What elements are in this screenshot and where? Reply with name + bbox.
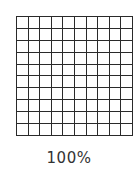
grid-cell bbox=[63, 100, 75, 112]
grid-cell bbox=[40, 76, 52, 88]
grid-cell bbox=[63, 88, 75, 100]
grid-cell bbox=[40, 41, 52, 53]
grid-cell bbox=[29, 17, 41, 29]
grid-cell bbox=[63, 29, 75, 41]
grid-cell bbox=[121, 17, 133, 29]
grid-cell bbox=[110, 53, 122, 65]
grid-cell bbox=[98, 88, 110, 100]
grid-cell bbox=[29, 76, 41, 88]
grid-cell bbox=[17, 65, 29, 77]
grid-cell bbox=[121, 100, 133, 112]
grid-cell bbox=[75, 88, 87, 100]
grid-cell bbox=[121, 76, 133, 88]
grid-cell bbox=[40, 100, 52, 112]
grid-cell bbox=[29, 100, 41, 112]
grid-cell bbox=[98, 100, 110, 112]
grid-cell bbox=[40, 17, 52, 29]
grid-cell bbox=[40, 53, 52, 65]
grid-cell bbox=[17, 29, 29, 41]
grid-cell bbox=[17, 76, 29, 88]
grid-cell bbox=[63, 41, 75, 53]
grid-cell bbox=[40, 112, 52, 124]
grid-cell bbox=[40, 65, 52, 77]
grid-cell bbox=[29, 112, 41, 124]
grid-cell bbox=[121, 29, 133, 41]
grid-cell bbox=[87, 29, 99, 41]
grid-cell bbox=[17, 88, 29, 100]
grid-cell bbox=[110, 112, 122, 124]
grid-cell bbox=[75, 29, 87, 41]
grid-cell bbox=[98, 124, 110, 136]
grid-cell bbox=[98, 53, 110, 65]
grid-cell bbox=[98, 112, 110, 124]
grid-cell bbox=[110, 88, 122, 100]
grid-cell bbox=[40, 88, 52, 100]
percent-label: 100% bbox=[0, 149, 138, 167]
grid-cell bbox=[52, 88, 64, 100]
grid-cell bbox=[110, 17, 122, 29]
grid-cell bbox=[98, 29, 110, 41]
grid-cell bbox=[52, 76, 64, 88]
grid-cell bbox=[87, 100, 99, 112]
grid-cell bbox=[52, 112, 64, 124]
grid-cell bbox=[98, 17, 110, 29]
grid-cell bbox=[52, 124, 64, 136]
grid-cell bbox=[17, 124, 29, 136]
grid-cell bbox=[17, 112, 29, 124]
grid-cell bbox=[75, 65, 87, 77]
grid-cell bbox=[110, 124, 122, 136]
grid-cell bbox=[75, 76, 87, 88]
grid-cell bbox=[110, 100, 122, 112]
grid-cell bbox=[121, 65, 133, 77]
grid-cell bbox=[63, 124, 75, 136]
grid-cell bbox=[75, 112, 87, 124]
grid-cell bbox=[29, 65, 41, 77]
grid-cell bbox=[75, 53, 87, 65]
grid-cell bbox=[98, 65, 110, 77]
grid-cell bbox=[98, 41, 110, 53]
grid-cell bbox=[29, 41, 41, 53]
grid-cell bbox=[52, 53, 64, 65]
grid-cell bbox=[29, 29, 41, 41]
grid-cell bbox=[63, 53, 75, 65]
grid-cell bbox=[40, 124, 52, 136]
grid-cell bbox=[29, 88, 41, 100]
grid-cell bbox=[121, 88, 133, 100]
grid-cell bbox=[63, 112, 75, 124]
grid-cell bbox=[121, 53, 133, 65]
grid-cell bbox=[87, 17, 99, 29]
grid-cell bbox=[110, 76, 122, 88]
grid-cell bbox=[52, 17, 64, 29]
grid-cell bbox=[87, 112, 99, 124]
grid-cell bbox=[17, 53, 29, 65]
grid-cell bbox=[121, 124, 133, 136]
grid-cell bbox=[87, 41, 99, 53]
grid-cell bbox=[75, 100, 87, 112]
grid-cell bbox=[121, 41, 133, 53]
grid-cell bbox=[75, 124, 87, 136]
grid-cell bbox=[63, 65, 75, 77]
grid-cell bbox=[52, 65, 64, 77]
grid-cell bbox=[17, 100, 29, 112]
grid-cell bbox=[29, 124, 41, 136]
grid-cell bbox=[87, 88, 99, 100]
grid-cell bbox=[98, 76, 110, 88]
grid-cell bbox=[110, 65, 122, 77]
grid-cell bbox=[87, 65, 99, 77]
grid-cell bbox=[63, 17, 75, 29]
grid-cell bbox=[63, 76, 75, 88]
grid-cell bbox=[75, 17, 87, 29]
grid-cell bbox=[52, 41, 64, 53]
grid-cell bbox=[75, 41, 87, 53]
grid-cell bbox=[121, 112, 133, 124]
grid-cell bbox=[29, 53, 41, 65]
grid-cell bbox=[110, 29, 122, 41]
grid-cell bbox=[52, 29, 64, 41]
grid-cell bbox=[17, 41, 29, 53]
grid-cell bbox=[110, 41, 122, 53]
grid-cell bbox=[17, 17, 29, 29]
grid-cell bbox=[40, 29, 52, 41]
grid-cell bbox=[52, 100, 64, 112]
grid-cell bbox=[87, 53, 99, 65]
hundred-grid bbox=[16, 16, 133, 136]
